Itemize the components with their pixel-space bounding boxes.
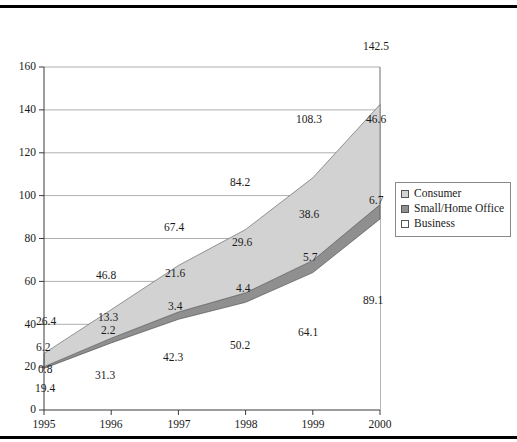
legend-swatch-consumer-icon (401, 190, 409, 198)
ytick-160: 160 (8, 61, 36, 73)
xtick-1998: 1998 (224, 419, 268, 431)
label-soho-1996: 2.2 (101, 325, 115, 337)
xtick-1995: 1995 (22, 419, 66, 431)
ytick-60: 60 (8, 276, 36, 288)
xtick-1997: 1997 (157, 419, 201, 431)
legend-swatch-small-home-office-icon (401, 205, 409, 213)
x-axis (44, 410, 380, 415)
top-rule (0, 5, 517, 8)
label-consumer-1999: 38.6 (299, 209, 319, 221)
ytick-140: 140 (8, 104, 36, 116)
xtick-1999: 1999 (291, 419, 335, 431)
y-axis (39, 67, 44, 410)
label-consumer-1996: 13.3 (98, 312, 118, 324)
label-total-2000: 142.5 (363, 41, 389, 53)
label-business-1996: 31.3 (95, 370, 115, 382)
label-consumer-2000: 46.6 (366, 114, 386, 126)
label-soho-1995: 0.8 (38, 364, 52, 376)
ytick-40: 40 (8, 319, 36, 331)
label-total-1997: 67.4 (164, 222, 184, 234)
chart-legend: Consumer Small/Home Office Business (395, 182, 511, 237)
ytick-120: 120 (8, 147, 36, 159)
xtick-2000: 2000 (358, 419, 402, 431)
ytick-0: 0 (8, 404, 36, 416)
label-business-2000: 89.1 (363, 295, 383, 307)
label-consumer-1995: 6.2 (36, 342, 50, 354)
ytick-20: 20 (8, 361, 36, 373)
xtick-1996: 1996 (89, 419, 133, 431)
legend-item-consumer[interactable]: Consumer (401, 187, 506, 201)
label-total-1996: 46.8 (96, 270, 116, 282)
bottom-rule (0, 436, 517, 439)
label-soho-1997: 3.4 (168, 301, 182, 313)
label-business-1999: 64.1 (298, 327, 318, 339)
ytick-100: 100 (8, 190, 36, 202)
ytick-80: 80 (8, 233, 36, 245)
legend-swatch-business-icon (401, 220, 409, 228)
label-total-1998: 84.2 (230, 177, 250, 189)
legend-label-small-home-office: Small/Home Office (414, 203, 504, 215)
legend-item-business[interactable]: Business (401, 217, 506, 231)
label-business-1995: 19.4 (35, 383, 55, 395)
label-business-1998: 50.2 (230, 340, 250, 352)
legend-label-consumer: Consumer (414, 188, 461, 200)
chart-figure: 160 140 120 100 80 60 40 20 0 1995 1996 … (0, 0, 517, 442)
label-consumer-1998: 29.6 (232, 237, 252, 249)
legend-item-small-home-office[interactable]: Small/Home Office (401, 202, 506, 216)
label-total-1995: 26.4 (36, 316, 56, 328)
label-business-1997: 42.3 (163, 352, 183, 364)
label-total-1999: 108.3 (296, 114, 322, 126)
legend-label-business: Business (414, 218, 455, 230)
label-consumer-1997: 21.6 (165, 268, 185, 280)
label-soho-2000: 6.7 (369, 195, 383, 207)
label-soho-1999: 5.7 (303, 252, 317, 264)
label-soho-1998: 4.4 (236, 283, 250, 295)
